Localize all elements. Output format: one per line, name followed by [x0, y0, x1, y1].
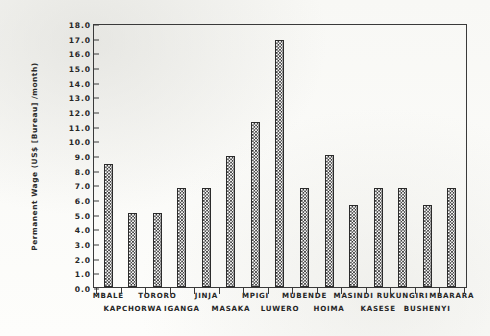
x-axis-tick-mark — [194, 288, 195, 294]
bar[interactable] — [177, 188, 186, 287]
x-axis-tick-label: LUWERO — [261, 304, 300, 313]
x-axis-tick-mark — [145, 288, 146, 294]
bar[interactable] — [128, 213, 137, 287]
x-axis-tick-mark — [415, 288, 416, 294]
x-axis-tick-label: MBARARA — [429, 291, 474, 300]
y-axis-tick: 12.0 — [57, 109, 94, 118]
bar[interactable] — [251, 122, 260, 287]
bar[interactable] — [374, 188, 383, 287]
bar[interactable] — [104, 164, 113, 287]
y-axis-tick: 11.0 — [57, 123, 94, 132]
x-axis-tick-label: JINJA — [195, 291, 218, 300]
y-axis-tick: 17.0 — [57, 35, 94, 44]
y-axis-title: Permanent Wage (US$ [Bureau] /month) — [30, 37, 39, 277]
y-axis-tick: 1.0 — [57, 270, 94, 279]
y-axis-tick-label: 10.0 — [57, 138, 94, 147]
bar-slot — [292, 25, 317, 287]
y-axis-tick-label: 12.0 — [57, 109, 94, 118]
y-axis-tick: 3.0 — [57, 241, 94, 250]
y-axis-tick-label: 17.0 — [57, 35, 94, 44]
y-axis-tick-label: 3.0 — [57, 241, 94, 250]
x-axis-tick-label: MUBENDE — [282, 291, 327, 300]
bar[interactable] — [349, 205, 358, 287]
bar-slot — [439, 25, 464, 287]
bar[interactable] — [398, 188, 407, 287]
x-axis-tick-mark — [439, 288, 440, 294]
bar-slot — [317, 25, 342, 287]
y-axis-tick: 5.0 — [57, 211, 94, 220]
x-axis-tick-label: HOIMA — [314, 304, 345, 313]
y-axis-tick: 9.0 — [57, 153, 94, 162]
x-axis-tick-mark — [390, 288, 391, 294]
x-axis-tick-label: KASESE — [360, 304, 395, 313]
y-axis-tick-label: 4.0 — [57, 226, 94, 235]
x-axis-tick-label: MPIGI — [242, 291, 269, 300]
y-axis-tick-label: 16.0 — [57, 50, 94, 59]
y-axis-tick: 16.0 — [57, 50, 94, 59]
bar-slot — [194, 25, 219, 287]
y-axis-tick-label: 6.0 — [57, 197, 94, 206]
y-axis-tick-label: 5.0 — [57, 211, 94, 220]
bar-slot — [219, 25, 244, 287]
bar[interactable] — [153, 213, 162, 287]
y-axis-tick: 8.0 — [57, 167, 94, 176]
x-axis-tick-mark — [317, 288, 318, 294]
y-axis-tick-label: 1.0 — [57, 270, 94, 279]
y-axis-tick-label: 0.0 — [57, 285, 94, 294]
bar-slot — [366, 25, 391, 287]
bar[interactable] — [423, 205, 432, 287]
y-axis-tick: 15.0 — [57, 65, 94, 74]
y-axis-tick-label: 15.0 — [57, 65, 94, 74]
x-axis-tick-mark — [219, 288, 220, 294]
x-axis-tick-mark — [243, 288, 244, 294]
x-axis-tick-label: RUKUNGIRI — [377, 291, 429, 300]
bar-slot — [415, 25, 440, 287]
x-axis-tick-mark — [366, 288, 367, 294]
x-axis-tick-mark — [170, 288, 171, 294]
y-axis-tick: 14.0 — [57, 79, 94, 88]
bar[interactable] — [325, 155, 334, 287]
bar[interactable] — [275, 40, 284, 287]
y-axis-tick: 7.0 — [57, 182, 94, 191]
y-axis-tick: 13.0 — [57, 94, 94, 103]
x-axis-tick-label: BUSHENYI — [404, 304, 451, 313]
bar[interactable] — [226, 156, 235, 287]
y-axis-tick: 10.0 — [57, 138, 94, 147]
x-axis-tick-mark — [96, 288, 97, 294]
x-axis-tick-label: MASINDI — [334, 291, 374, 300]
x-axis-tick-label: MBALE — [93, 291, 124, 300]
bar-slot — [170, 25, 195, 287]
y-axis-tick: 0.0 — [57, 285, 94, 294]
bar-series — [94, 25, 466, 287]
x-axis-tick-mark — [341, 288, 342, 294]
y-axis-tick-label: 7.0 — [57, 182, 94, 191]
bar[interactable] — [202, 188, 211, 287]
y-axis-tick-label: 2.0 — [57, 255, 94, 264]
x-axis-tick-label: KAPCHORWA — [104, 304, 163, 313]
bar-chart-figure: Permanent Wage (US$ [Bureau] /month) 0.0… — [0, 0, 490, 336]
y-axis-tick-label: 9.0 — [57, 153, 94, 162]
y-axis-tick-label: 8.0 — [57, 167, 94, 176]
bar-slot — [268, 25, 293, 287]
y-axis-tick: 2.0 — [57, 255, 94, 264]
bar[interactable] — [447, 188, 456, 287]
plot-area: 0.01.02.03.04.05.06.07.08.09.010.011.012… — [93, 24, 467, 288]
bar[interactable] — [300, 188, 309, 287]
x-axis-tick-mark — [268, 288, 269, 294]
x-axis-labels: MBALEKAPCHORWATOROROIGANGAJINJAMASAKAMPI… — [93, 289, 467, 331]
y-axis-tick-label: 18.0 — [57, 21, 94, 30]
bar-slot — [96, 25, 121, 287]
y-axis-tick-label: 13.0 — [57, 94, 94, 103]
x-axis-tick-mark — [292, 288, 293, 294]
bar-slot — [341, 25, 366, 287]
x-axis-tick-label: TORORO — [138, 291, 176, 300]
bar-slot — [145, 25, 170, 287]
bar-slot — [121, 25, 146, 287]
y-axis-tick: 4.0 — [57, 226, 94, 235]
y-axis-tick-label: 14.0 — [57, 79, 94, 88]
bar-slot — [243, 25, 268, 287]
bar-slot — [390, 25, 415, 287]
x-axis-tick-label: MASAKA — [212, 304, 251, 313]
x-axis-tick-mark — [464, 288, 465, 294]
x-axis-tick-label: IGANGA — [164, 304, 200, 313]
